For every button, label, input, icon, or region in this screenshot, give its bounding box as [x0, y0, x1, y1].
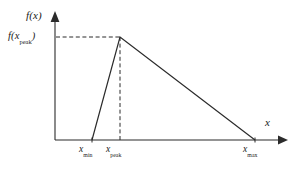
x-axis: [55, 136, 288, 145]
function-curve: [92, 37, 255, 140]
x-axis-arrowhead: [278, 136, 288, 145]
y-axis-label: f(x): [26, 10, 42, 21]
y-axis-label-close-paren: ): [38, 9, 42, 21]
y-value-label-subscript: peak: [19, 38, 31, 45]
x-tick-label-min: xmin: [79, 145, 92, 155]
x-tick-label-min-subscript: min: [83, 152, 92, 158]
x-axis-label-var: x: [265, 116, 270, 128]
y-value-label-close-paren: ): [32, 30, 36, 41]
x-tick-label-peak: xpeak: [106, 145, 121, 155]
x-axis-label: x: [265, 117, 270, 128]
triangular-function-figure: f(x) f(xpeak) x xmin xpeak xmax: [0, 0, 297, 171]
x-tick-label-max: xmax: [243, 145, 257, 155]
y-axis: [51, 11, 60, 140]
y-axis-arrowhead: [51, 11, 60, 22]
x-tick-label-peak-subscript: peak: [110, 152, 121, 158]
x-tick-label-max-subscript: max: [247, 152, 257, 158]
y-value-label: f(xpeak): [8, 31, 35, 42]
